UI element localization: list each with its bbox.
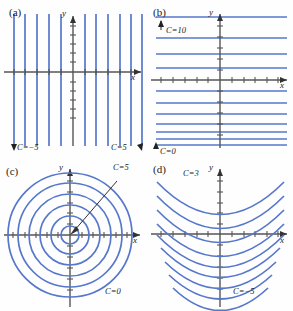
panel-b-x-axis-label: x <box>280 80 284 90</box>
panel-a-x-axis-label: x <box>131 72 135 82</box>
panel-c: (c) x y C=5 C=0 <box>0 155 147 311</box>
panel-b: (b) x y C=10 C=0 <box>147 0 293 155</box>
panel-a-curves <box>14 14 142 146</box>
level-curves-figure: (a) x y C=−5 C=5 <box>0 0 293 311</box>
panel-d-y-axis-label: y <box>209 162 213 172</box>
panel-b-level-label-max: C=10 <box>166 25 186 35</box>
panel-d-tag: (d) <box>153 163 166 175</box>
panel-a-y-axis-label: y <box>62 8 66 18</box>
panel-c-y-axis-label: y <box>59 162 63 172</box>
panel-b-callout-arrows <box>153 20 164 149</box>
panel-b-tag: (b) <box>153 6 166 18</box>
panel-d-x-axis-label: x <box>280 235 284 245</box>
panel-d-level-label-min: C=−5 <box>233 286 254 296</box>
panel-a: (a) x y C=−5 C=5 <box>0 0 147 155</box>
panel-b-y-axis-label: y <box>209 7 213 17</box>
panel-a-plot <box>0 0 147 155</box>
panel-a-tag: (a) <box>9 6 21 18</box>
panel-c-level-label-inner: C=5 <box>113 162 129 172</box>
panel-c-plot <box>0 155 147 311</box>
panel-d: (d) x y C=3 C=−5 <box>147 155 293 311</box>
panel-d-level-label-max: C=3 <box>183 168 199 178</box>
panel-a-level-label-min: C=−5 <box>17 142 38 152</box>
panel-d-plot <box>147 155 293 311</box>
panel-a-level-label-max: C=5 <box>111 142 127 152</box>
panel-c-level-label-outer: C=0 <box>105 286 121 296</box>
panel-b-plot <box>147 0 293 155</box>
panel-c-tag: (c) <box>6 165 18 177</box>
panel-c-x-axis-label: x <box>133 235 137 245</box>
